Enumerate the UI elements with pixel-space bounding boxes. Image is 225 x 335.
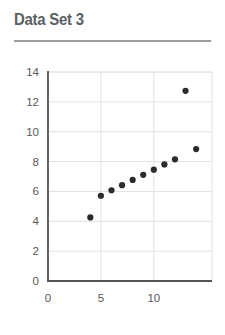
data-point	[119, 182, 125, 188]
data-point	[161, 161, 167, 167]
y-axis-tick-labels: 02468101214	[26, 66, 39, 287]
data-point	[108, 187, 114, 193]
y-tick-label: 0	[33, 275, 39, 287]
y-tick-label: 2	[33, 245, 39, 257]
data-point	[193, 146, 199, 152]
y-tick-label: 4	[33, 215, 40, 227]
y-tick-label: 6	[33, 185, 39, 197]
x-tick-label: 10	[147, 292, 160, 304]
x-tick-label: 0	[45, 292, 51, 304]
data-point	[182, 88, 188, 94]
chart-canvas: 02468101214 0510	[0, 52, 225, 335]
y-tick-label: 10	[26, 126, 39, 138]
data-point	[172, 156, 178, 162]
y-tick-label: 14	[26, 66, 39, 78]
y-tick-label: 12	[26, 96, 39, 108]
chart-card: Data Set 3 02468101214 0510	[0, 0, 225, 335]
axes	[47, 71, 212, 281]
data-point	[98, 193, 104, 199]
x-tick-label: 5	[98, 292, 104, 304]
data-point	[151, 167, 157, 173]
x-axis-tick-labels: 0510	[45, 292, 160, 304]
scatter-plot: 02468101214 0510	[0, 52, 225, 335]
y-tick-label: 8	[33, 156, 39, 168]
data-point	[140, 172, 146, 178]
page-title: Data Set 3	[14, 10, 84, 30]
title-divider	[14, 40, 211, 42]
data-point	[87, 214, 93, 220]
gridlines	[48, 72, 212, 281]
data-points	[87, 88, 199, 221]
data-point	[130, 177, 136, 183]
